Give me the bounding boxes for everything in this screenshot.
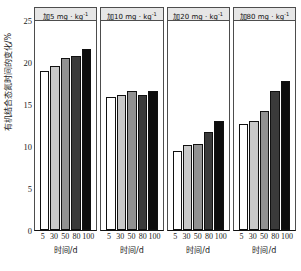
x-tick-group-4: 5305080100 xyxy=(233,231,296,243)
x-tick-group-1: 5305080100 xyxy=(34,231,97,243)
x-axis-tick-label: 100 xyxy=(281,231,293,243)
x-axis-tick-label: 100 xyxy=(149,231,161,243)
chart-panel-3: 加20 mg · kg-1 xyxy=(167,7,230,231)
bar-group xyxy=(168,21,229,230)
x-axis-title-1: 时间/d xyxy=(34,245,97,259)
bar-50d xyxy=(127,91,136,230)
bar-30d xyxy=(249,121,258,230)
y-axis-tick-label: 25 xyxy=(12,17,32,25)
x-axis-tick-label: 50 xyxy=(258,231,269,243)
bar-100d xyxy=(148,91,157,230)
bar-5d xyxy=(173,151,182,230)
x-axis-ticks: 5305080100530508010053050801005305080100 xyxy=(34,231,296,243)
panel-title-exponent: -1 xyxy=(152,11,157,17)
x-axis-tick-label: 50 xyxy=(126,231,137,243)
panel-title: 加5 mg · kg-1 xyxy=(34,7,97,21)
x-axis-tick-label: 5 xyxy=(103,231,114,243)
bar-5d xyxy=(239,124,248,230)
panel-plot-area xyxy=(100,21,163,231)
panel-title: 加80 mg · kg-1 xyxy=(233,7,296,21)
y-axis-tick-label: 5 xyxy=(12,185,32,193)
x-axis-tick-label: 100 xyxy=(215,231,227,243)
bar-100d xyxy=(82,49,91,230)
bar-50d xyxy=(260,111,269,230)
bar-group xyxy=(234,21,295,230)
bar-30d xyxy=(183,145,192,230)
panel-title-exponent: -1 xyxy=(83,11,88,17)
chart-panel-1: 加5 mg · kg-1 xyxy=(34,7,97,231)
x-axis-tick-label: 30 xyxy=(48,231,59,243)
bar-80d xyxy=(138,95,147,230)
panel-title: 加10 mg · kg-1 xyxy=(100,7,163,21)
bar-5d xyxy=(40,71,49,230)
y-axis-tick-label: 15 xyxy=(12,101,32,109)
bar-80d xyxy=(204,132,213,230)
bar-50d xyxy=(193,144,202,230)
x-axis-tick-label: 30 xyxy=(115,231,126,243)
y-axis-ticks: 2520151050 xyxy=(8,0,32,271)
y-axis-tick-label: 10 xyxy=(12,143,32,151)
chart-figure: 有机结合态氮时间的变化/% 2520151050 加5 mg · kg-1加10… xyxy=(0,0,301,271)
x-axis-tick-label: 5 xyxy=(37,231,48,243)
x-axis-tick-label: 80 xyxy=(270,231,281,243)
bar-group xyxy=(35,21,96,230)
bar-50d xyxy=(61,58,70,230)
x-axis-tick-label: 30 xyxy=(247,231,258,243)
x-axis-tick-label: 100 xyxy=(82,231,94,243)
bar-30d xyxy=(117,95,126,230)
panels-container: 加5 mg · kg-1加10 mg · kg-1加20 mg · kg-1加8… xyxy=(34,7,296,231)
bar-100d xyxy=(281,81,290,230)
panel-plot-area xyxy=(167,21,230,231)
x-axis-titles: 时间/d时间/d时间/d时间/d xyxy=(34,245,296,259)
bar-5d xyxy=(106,97,115,230)
bar-80d xyxy=(270,91,279,230)
panel-plot-area xyxy=(233,21,296,231)
x-axis-title-2: 时间/d xyxy=(100,245,163,259)
x-axis-tick-label: 50 xyxy=(60,231,71,243)
bar-30d xyxy=(50,66,59,230)
panel-plot-area xyxy=(34,21,97,231)
bar-100d xyxy=(214,121,223,230)
x-axis-title-4: 时间/d xyxy=(233,245,296,259)
x-axis-tick-label: 5 xyxy=(236,231,247,243)
x-axis-title-3: 时间/d xyxy=(167,245,230,259)
y-axis-tick-label: 0 xyxy=(12,227,32,235)
x-axis-tick-label: 80 xyxy=(203,231,214,243)
panel-title: 加20 mg · kg-1 xyxy=(167,7,230,21)
x-axis-tick-label: 80 xyxy=(71,231,82,243)
bar-80d xyxy=(71,56,80,230)
x-tick-group-2: 5305080100 xyxy=(100,231,163,243)
chart-panel-4: 加80 mg · kg-1 xyxy=(233,7,296,231)
y-axis-tick-label: 20 xyxy=(12,59,32,67)
x-axis-tick-label: 80 xyxy=(137,231,148,243)
chart-panel-2: 加10 mg · kg-1 xyxy=(100,7,163,231)
x-axis-tick-label: 30 xyxy=(181,231,192,243)
x-axis-tick-label: 5 xyxy=(170,231,181,243)
x-axis-tick-label: 50 xyxy=(192,231,203,243)
bar-group xyxy=(101,21,162,230)
panel-title-exponent: -1 xyxy=(284,11,289,17)
panel-title-exponent: -1 xyxy=(218,11,223,17)
x-tick-group-3: 5305080100 xyxy=(167,231,230,243)
